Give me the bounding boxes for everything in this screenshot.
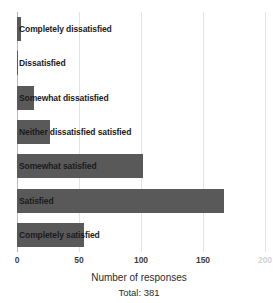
bar-row[interactable]: Completely dissatisfied (17, 17, 265, 41)
bar-row[interactable]: Satisfied (17, 189, 265, 213)
x-axis: 050100150200 (0, 252, 278, 270)
bar-series: Completely dissatisfiedDissatisfiedSomew… (17, 12, 265, 252)
bar-category-label: Satisfied (19, 196, 54, 205)
x-tick-50: 50 (74, 255, 83, 265)
gridline-200 (265, 12, 266, 252)
bar-chart: Completely dissatisfiedDissatisfiedSomew… (0, 0, 278, 303)
bar-row[interactable]: Neither dissatisfied satisfied (17, 120, 265, 144)
x-tick-150: 150 (196, 255, 210, 265)
bar-category-label: Completely satisfied (19, 231, 100, 240)
x-tick-0: 0 (15, 255, 20, 265)
bar-category-label: Somewhat dissatisfied (19, 93, 109, 102)
total-annotation: Total: 381 (0, 287, 278, 298)
plot-area: Completely dissatisfiedDissatisfiedSomew… (17, 12, 265, 252)
bar-category-label: Somewhat satisfied (19, 162, 97, 171)
bar-category-label: Completely dissatisfied (19, 25, 112, 34)
x-axis-label: Number of responses (0, 272, 278, 283)
bar-row[interactable]: Completely satisfied (17, 223, 265, 247)
bar-row[interactable]: Somewhat dissatisfied (17, 86, 265, 110)
x-tick-200-clipped: 200 (258, 255, 272, 265)
x-tick-100: 100 (134, 255, 148, 265)
bar-category-label: Dissatisfied (19, 59, 66, 68)
bar-category-label: Neither dissatisfied satisfied (19, 128, 131, 137)
bar-row[interactable]: Somewhat satisfied (17, 154, 265, 178)
bar-row[interactable]: Dissatisfied (17, 51, 265, 75)
